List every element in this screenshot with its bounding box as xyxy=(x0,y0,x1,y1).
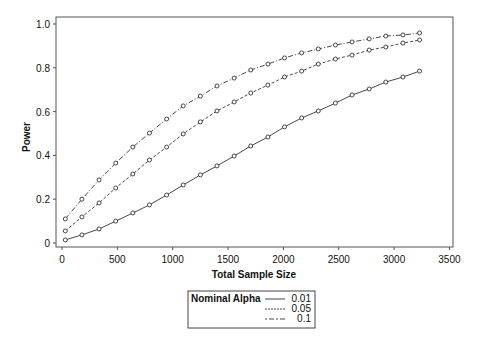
y-tick-label: 0.8 xyxy=(36,63,50,74)
data-point-marker xyxy=(401,75,405,79)
data-point-marker xyxy=(300,51,304,55)
data-point-marker xyxy=(97,227,101,231)
x-tick-label: 500 xyxy=(109,254,126,265)
data-point-marker xyxy=(249,68,253,72)
series-alpha-0.01 xyxy=(63,69,421,242)
data-point-marker xyxy=(147,203,151,207)
data-point-marker xyxy=(350,40,354,44)
data-point-marker xyxy=(80,233,84,237)
data-point-marker xyxy=(367,87,371,91)
data-point-marker xyxy=(333,101,337,105)
series-line xyxy=(65,33,419,219)
data-point-marker xyxy=(418,31,422,35)
data-point-marker xyxy=(147,158,151,162)
legend-title: Nominal Alpha xyxy=(191,293,261,304)
data-point-marker xyxy=(215,109,219,113)
plot-frame xyxy=(56,17,453,247)
series-layer xyxy=(63,31,421,242)
data-point-marker xyxy=(418,38,422,42)
x-tick-label: 2500 xyxy=(328,254,351,265)
y-tick-label: 0 xyxy=(44,238,50,249)
data-point-marker xyxy=(283,56,287,60)
x-tick-label: 3500 xyxy=(438,254,461,265)
data-point-marker xyxy=(147,131,151,135)
data-point-marker xyxy=(384,34,388,38)
data-point-marker xyxy=(384,45,388,49)
data-point-marker xyxy=(249,91,253,95)
data-point-marker xyxy=(63,229,67,233)
data-point-marker xyxy=(181,132,185,136)
data-point-marker xyxy=(165,117,169,121)
series-alpha-0.1 xyxy=(63,31,421,221)
data-point-marker xyxy=(232,100,236,104)
y-axis-title: Power xyxy=(21,122,32,152)
data-point-marker xyxy=(283,75,287,79)
data-point-marker xyxy=(114,219,118,223)
data-point-marker xyxy=(283,125,287,129)
data-point-marker xyxy=(333,57,337,61)
data-point-marker xyxy=(316,109,320,113)
data-point-marker xyxy=(418,69,422,73)
data-point-marker xyxy=(300,116,304,120)
data-point-marker xyxy=(165,193,169,197)
data-point-marker xyxy=(131,145,135,149)
y-tick-label: 0.6 xyxy=(36,107,50,118)
data-point-marker xyxy=(80,197,84,201)
data-point-marker xyxy=(80,215,84,219)
data-point-marker xyxy=(165,145,169,149)
x-tick-label: 3000 xyxy=(383,254,406,265)
data-point-marker xyxy=(401,33,405,37)
x-tick-label: 2000 xyxy=(272,254,295,265)
data-point-marker xyxy=(350,53,354,57)
data-point-marker xyxy=(401,41,405,45)
data-point-marker xyxy=(215,84,219,88)
x-axis-title: Total Sample Size xyxy=(212,269,297,280)
data-point-marker xyxy=(367,37,371,41)
legend-label: 0.1 xyxy=(297,313,311,324)
data-point-marker xyxy=(232,154,236,158)
data-point-marker xyxy=(316,62,320,66)
data-point-marker xyxy=(181,104,185,108)
x-tick-label: 1500 xyxy=(217,254,240,265)
data-point-marker xyxy=(97,201,101,205)
y-tick-label: 0.2 xyxy=(36,194,50,205)
x-axis: 0500100015002000250030003500 xyxy=(59,247,461,265)
series-alpha-0.05 xyxy=(63,38,421,233)
data-point-marker xyxy=(114,161,118,165)
series-line xyxy=(65,71,419,240)
data-point-marker xyxy=(131,211,135,215)
y-axis: 00.20.40.60.81.0 xyxy=(36,19,56,249)
legend: Nominal Alpha 0.010.050.1 xyxy=(188,291,315,328)
x-tick-label: 1000 xyxy=(162,254,185,265)
data-point-marker xyxy=(300,69,304,73)
data-point-marker xyxy=(63,217,67,221)
data-point-marker xyxy=(367,48,371,52)
data-point-marker xyxy=(131,172,135,176)
y-tick-label: 0.4 xyxy=(36,150,50,161)
data-point-marker xyxy=(63,238,67,242)
data-point-marker xyxy=(114,186,118,190)
data-point-marker xyxy=(333,43,337,47)
data-point-marker xyxy=(266,83,270,87)
data-point-marker xyxy=(249,144,253,148)
x-tick-label: 0 xyxy=(59,254,65,265)
data-point-marker xyxy=(97,178,101,182)
data-point-marker xyxy=(266,62,270,66)
data-point-marker xyxy=(198,94,202,98)
data-point-marker xyxy=(232,76,236,80)
data-point-marker xyxy=(316,47,320,51)
y-tick-label: 1.0 xyxy=(36,19,50,30)
data-point-marker xyxy=(181,183,185,187)
data-point-marker xyxy=(198,120,202,124)
data-point-marker xyxy=(198,173,202,177)
data-point-marker xyxy=(215,164,219,168)
data-point-marker xyxy=(266,135,270,139)
power-curve-chart: 00.20.40.60.81.0 05001000150020002500300… xyxy=(0,0,484,341)
series-line xyxy=(65,40,419,231)
data-point-marker xyxy=(350,93,354,97)
data-point-marker xyxy=(384,80,388,84)
